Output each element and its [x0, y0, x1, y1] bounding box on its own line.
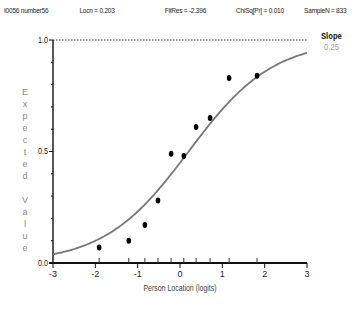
x-tick-label: -1: [134, 269, 142, 279]
x-axis-label: Person Location (logits): [143, 283, 217, 293]
observed-point: [194, 124, 199, 130]
observed-point: [182, 153, 187, 159]
observed-point: [227, 75, 232, 81]
x-tick-label: -2: [91, 269, 99, 279]
observed-point: [208, 115, 213, 121]
observed-point: [126, 238, 131, 244]
y-tick-label: 1.0: [38, 35, 48, 45]
chart-plot: 0.00.51.0-3-2-10123Person Location (logi…: [0, 0, 354, 309]
y-tick-label: 0.5: [38, 147, 48, 157]
x-tick-label: 2: [262, 269, 267, 279]
x-tick-label: -3: [49, 269, 57, 279]
x-tick-label: 0: [177, 269, 182, 279]
x-tick-label: 3: [304, 269, 309, 279]
expected-value-curve: [53, 53, 307, 255]
observed-point: [97, 244, 102, 250]
x-tick-label: 1: [220, 269, 225, 279]
observed-point: [255, 73, 260, 79]
observed-point: [156, 198, 161, 204]
y-tick-label: 0.0: [38, 258, 48, 268]
observed-point: [169, 151, 174, 157]
observed-point: [143, 222, 148, 228]
